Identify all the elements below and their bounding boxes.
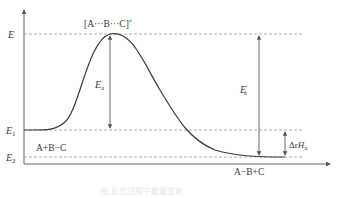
- label-E: E: [7, 29, 14, 40]
- figure-caption: 图 反应过程中能量变化: [100, 186, 183, 196]
- products-label: A−B+C: [234, 167, 264, 177]
- arrows: [110, 36, 285, 155]
- activation-energy-forward-label: Ea: [94, 79, 105, 92]
- label-E1: E1: [5, 125, 16, 138]
- enthalpy-change-label: ΔrHa: [289, 140, 307, 151]
- axes: [24, 10, 330, 164]
- transition-state-label: [A···B···C]≠: [84, 18, 133, 29]
- energy-profile-diagram: E E1 E2 [A···B···C]≠ Ea E′a ΔrHa A+B−C A…: [0, 0, 340, 198]
- reactants-label: A+B−C: [36, 143, 66, 153]
- label-E2: E2: [5, 152, 16, 165]
- activation-energy-reverse-label: E′a: [239, 83, 248, 97]
